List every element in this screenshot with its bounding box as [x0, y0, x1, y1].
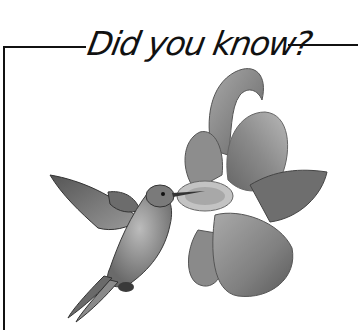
flower-icon — [177, 69, 327, 297]
hummingbird-flower-illustration — [0, 0, 358, 330]
